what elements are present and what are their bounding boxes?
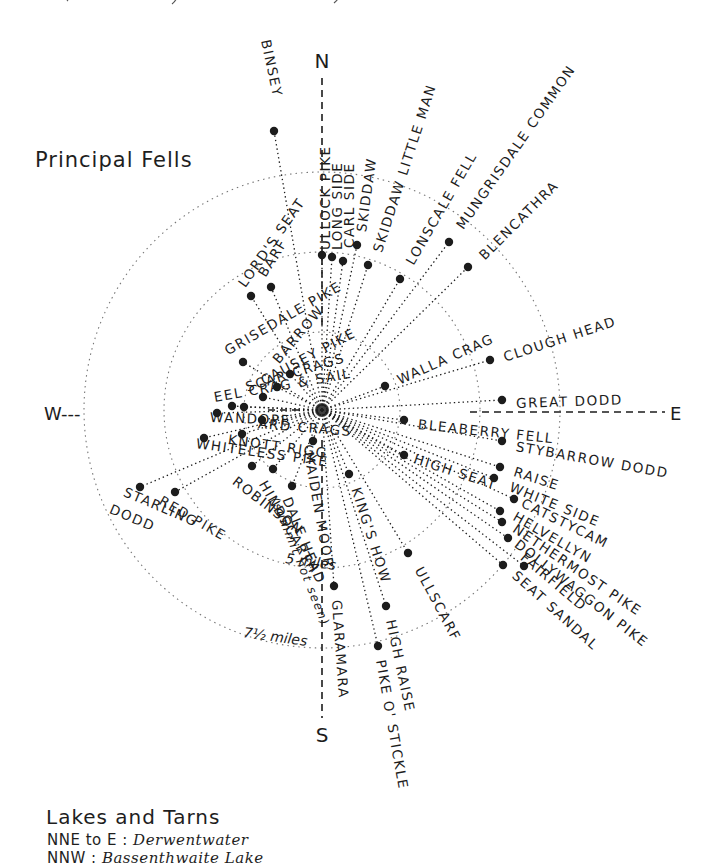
fell-label: BINSEY (258, 38, 286, 98)
viewpoint-center (315, 403, 329, 417)
summit-dot (496, 463, 504, 471)
ring-distance-label: 7½ miles (243, 624, 309, 649)
compass-north: N (315, 49, 330, 73)
compass-south: S (316, 723, 329, 747)
summit-dot (504, 534, 512, 542)
fells-radial-diagram: 5 miles7½ miles BINSEYULLOCK PIKELONG SI… (0, 0, 724, 867)
summit-dot (269, 465, 277, 473)
sight-line (322, 257, 332, 410)
lake-entry-bassenthwaite: NNW : Bassenthwaite Lake (47, 849, 264, 867)
summit-dot (339, 257, 347, 265)
fell-label: CARL SIDE (341, 162, 357, 248)
fell-label: WALLA CRAG (394, 330, 496, 387)
lake-entry-derwentwater: NNE to E : Derwentwater (47, 831, 248, 849)
sight-line (263, 397, 322, 410)
fell-label: MUNGRISDALE COMMON (453, 62, 579, 232)
sight-line (322, 400, 502, 410)
summit-dot (382, 602, 390, 610)
summit-dot (400, 451, 408, 459)
summit-dot (171, 488, 179, 496)
fell-label: KING'S HOW (348, 485, 394, 585)
summit-dot (248, 462, 256, 470)
summit-dot (267, 283, 275, 291)
fell-label: WANDOPE (210, 409, 291, 428)
summit-dot (496, 507, 504, 515)
summit-dot (400, 416, 408, 424)
summit-dot (328, 253, 336, 261)
fell-label: SKIDDAW (353, 156, 379, 233)
summit-dot (330, 582, 338, 590)
summit-dot (270, 127, 278, 135)
fell-label: HIGH SEAT (412, 450, 500, 492)
summit-dot (404, 549, 412, 557)
summit-dot (288, 482, 296, 490)
summit-dot (486, 356, 494, 364)
lake-direction: NNW : (47, 849, 97, 867)
summit-dot (445, 238, 453, 246)
summit-dot (498, 396, 506, 404)
lake-direction: NNE to E : (47, 831, 128, 849)
fell-label: GLARAMARA (329, 599, 352, 699)
summit-dot (396, 275, 404, 283)
compass-west: W--- (44, 403, 81, 424)
lakes-and-tarns-heading: Lakes and Tarns (46, 805, 220, 829)
summit-dot (247, 292, 255, 300)
summit-dot (345, 470, 353, 478)
lake-name: Bassenthwaite Lake (102, 849, 264, 867)
summit-dot (498, 518, 506, 526)
principal-fells-heading: Principal Fells (35, 148, 193, 172)
lake-name: Derwentwater (133, 831, 248, 849)
summit-dot (318, 251, 326, 259)
summit-dot (374, 642, 382, 650)
summit-dot (499, 561, 507, 569)
fell-label: CLOUGH HEAD (501, 313, 618, 365)
fell-label: GREAT DODD (516, 391, 623, 411)
summit-dot (381, 382, 389, 390)
summit-dot (364, 261, 372, 269)
summit-dot (239, 358, 247, 366)
fell-label: ULLSCARF (412, 564, 465, 644)
compass-east: E (670, 403, 681, 424)
summit-dot (464, 263, 472, 271)
